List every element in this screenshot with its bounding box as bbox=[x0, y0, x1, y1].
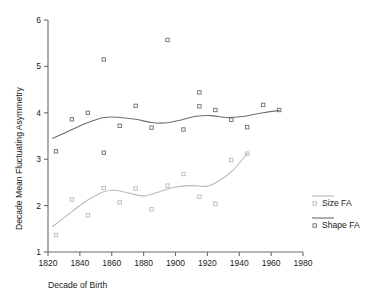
data-point-marker bbox=[102, 58, 105, 61]
data-point-marker bbox=[102, 186, 105, 189]
data-point-marker bbox=[118, 201, 121, 204]
series-data-markers bbox=[54, 38, 281, 236]
x-tick-label: 1920 bbox=[198, 258, 217, 268]
data-point-marker bbox=[150, 126, 153, 129]
y-axis-title: Decade Mean Fluctuating Asymmetry bbox=[14, 86, 24, 230]
data-point-marker bbox=[70, 198, 73, 201]
x-tick-label: 1860 bbox=[102, 258, 121, 268]
fluctuating-asymmetry-scatter-chart: 123456 182018401860188019001920194019601… bbox=[0, 0, 387, 303]
legend-marker-swatch bbox=[313, 224, 316, 227]
data-point-marker bbox=[150, 208, 153, 211]
x-tick-label: 1820 bbox=[39, 258, 58, 268]
x-tick-label: 1960 bbox=[262, 258, 281, 268]
chart-figure: 123456 182018401860188019001920194019601… bbox=[0, 0, 387, 303]
y-tick-label: 3 bbox=[36, 154, 41, 164]
y-tick-label: 1 bbox=[36, 247, 41, 257]
data-point-marker bbox=[70, 118, 73, 121]
data-point-marker bbox=[166, 184, 169, 187]
legend-marker-swatch bbox=[313, 202, 316, 205]
x-tick-label: 1840 bbox=[70, 258, 89, 268]
chart-legend: Size FAShape FA bbox=[312, 196, 360, 230]
x-axis-ticks: 182018401860188019001920194019601980 bbox=[39, 252, 313, 268]
series-fit-line bbox=[53, 154, 247, 227]
data-point-marker bbox=[182, 172, 185, 175]
x-tick-label: 1940 bbox=[230, 258, 249, 268]
data-point-marker bbox=[134, 187, 137, 190]
data-point-marker bbox=[214, 108, 217, 111]
data-point-marker bbox=[86, 111, 89, 114]
data-point-marker bbox=[198, 195, 201, 198]
y-tick-label: 6 bbox=[36, 15, 41, 25]
legend-entry-label: Size FA bbox=[322, 198, 352, 208]
data-point-marker bbox=[54, 150, 57, 153]
data-point-marker bbox=[102, 151, 105, 154]
data-point-marker bbox=[54, 233, 57, 236]
data-point-marker bbox=[261, 103, 264, 106]
data-point-marker bbox=[214, 202, 217, 205]
x-tick-label: 1980 bbox=[294, 258, 313, 268]
data-point-marker bbox=[198, 105, 201, 108]
x-tick-label: 1900 bbox=[166, 258, 185, 268]
x-axis-title: Decade of Birth bbox=[48, 280, 107, 290]
y-axis-ticks: 123456 bbox=[36, 15, 48, 257]
y-tick-label: 2 bbox=[36, 201, 41, 211]
data-point-marker bbox=[246, 125, 249, 128]
x-tick-label: 1880 bbox=[134, 258, 153, 268]
data-point-marker bbox=[86, 214, 89, 217]
y-tick-label: 5 bbox=[36, 61, 41, 71]
data-point-marker bbox=[230, 118, 233, 121]
data-point-marker bbox=[118, 124, 121, 127]
data-point-marker bbox=[198, 91, 201, 94]
data-point-marker bbox=[134, 104, 137, 107]
legend-entry-label: Shape FA bbox=[322, 220, 360, 230]
data-point-marker bbox=[230, 158, 233, 161]
y-tick-label: 4 bbox=[36, 108, 41, 118]
data-point-marker bbox=[182, 128, 185, 131]
data-point-marker bbox=[166, 38, 169, 41]
